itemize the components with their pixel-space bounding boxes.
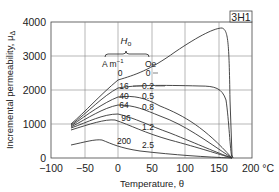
- oe-label: 2.5: [142, 140, 154, 150]
- y-axis-ticks: 0 1000 2000 3000 4000: [23, 16, 47, 164]
- am-label: 16: [119, 81, 129, 91]
- am-label: 0: [118, 68, 123, 78]
- y-tick: 4000: [23, 16, 47, 28]
- x-tick: −50: [76, 162, 94, 174]
- am-label: 200: [117, 136, 131, 146]
- curve-96: [71, 114, 232, 158]
- badge-label: 3H1: [231, 11, 250, 23]
- oe-label: 0: [146, 68, 151, 78]
- svg-text:Incremental permeability, μΔ: Incremental permeability, μΔ: [4, 31, 16, 150]
- oe-label: 0.8: [142, 102, 154, 112]
- oe-labels: 0 0.2 0.5 0.8 1.2 2.5: [142, 68, 154, 150]
- oe-label: 0.5: [142, 91, 154, 101]
- y-tick: 1000: [23, 118, 47, 130]
- x-tick: 200 °C: [242, 162, 275, 174]
- x-axis-title: Temperature, θ: [120, 178, 184, 189]
- h0-symbol: Ho: [121, 35, 132, 47]
- x-tick: 150: [210, 162, 228, 174]
- x-axis-ticks: −100 −50 0 50 100 150 200 °C: [39, 162, 274, 174]
- y-tick: 2000: [23, 84, 47, 96]
- am-label: 64: [119, 100, 129, 110]
- x-tick: −100: [39, 162, 63, 174]
- y-axis-title: Incremental permeability, μΔ: [4, 31, 16, 150]
- x-tick: 50: [146, 162, 158, 174]
- chart: 0 1000 2000 3000 4000 −100 −50 0 50 100 …: [0, 0, 279, 192]
- x-tick: 100: [176, 162, 194, 174]
- x-tick: 0: [115, 162, 121, 174]
- y-tick: 3000: [23, 50, 47, 62]
- am-label: 96: [121, 113, 131, 123]
- oe-label: 0.2: [142, 81, 154, 91]
- oe-label: 1.2: [142, 122, 154, 132]
